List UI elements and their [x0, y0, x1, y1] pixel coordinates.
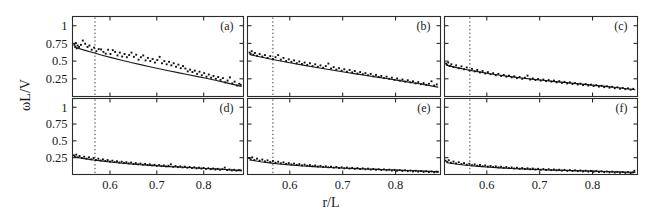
- data-point: [322, 166, 324, 168]
- data-point: [463, 162, 465, 164]
- data-point: [450, 63, 452, 65]
- data-point: [380, 169, 382, 171]
- data-point: [83, 156, 85, 158]
- data-point: [158, 164, 160, 166]
- data-point: [471, 68, 473, 70]
- data-point: [521, 167, 523, 169]
- data-point-group: [73, 40, 241, 87]
- data-point: [616, 86, 618, 88]
- data-point: [293, 163, 295, 165]
- data-point: [212, 168, 214, 170]
- data-point: [611, 86, 613, 88]
- data-point: [447, 62, 449, 64]
- data-point: [145, 59, 147, 61]
- scatter-panel-figure: (a)(b)(c)(d)(e)(f)0.250.50.7510.250.50.7…: [0, 0, 662, 214]
- data-point: [128, 54, 130, 56]
- data-point: [81, 157, 83, 159]
- data-point: [206, 76, 208, 78]
- data-point: [93, 47, 95, 49]
- figure-panel-grid: (a)(b)(c)(d)(e)(f)0.250.50.7510.250.50.7…: [0, 0, 662, 214]
- data-point: [208, 74, 210, 76]
- data-point: [367, 74, 369, 76]
- data-point: [312, 65, 314, 67]
- data-point: [590, 84, 592, 86]
- data-point: [73, 44, 75, 46]
- data-point: [179, 165, 181, 167]
- data-point: [102, 51, 104, 53]
- data-point: [314, 63, 316, 65]
- data-point: [409, 170, 411, 172]
- data-point: [309, 62, 311, 64]
- data-point: [455, 64, 457, 66]
- data-point: [415, 82, 417, 84]
- x-tick-label: 0.8: [585, 178, 601, 192]
- fit-curve: [75, 47, 241, 86]
- data-point: [227, 80, 229, 82]
- data-point: [264, 160, 266, 162]
- data-point: [135, 54, 137, 56]
- data-point: [343, 68, 345, 70]
- data-point: [196, 167, 198, 169]
- data-point: [140, 56, 142, 58]
- data-point: [117, 54, 119, 56]
- data-point: [217, 168, 219, 170]
- data-point: [548, 168, 550, 170]
- data-point: [601, 170, 603, 172]
- data-point: [203, 72, 205, 74]
- data-point: [505, 166, 507, 168]
- y-axis-label: ωL/V: [18, 79, 33, 111]
- data-point: [193, 166, 195, 168]
- data-point: [479, 164, 481, 166]
- data-point: [304, 62, 306, 64]
- data-point: [116, 160, 118, 162]
- data-point: [412, 170, 414, 172]
- data-point: [306, 64, 308, 66]
- data-point: [516, 167, 518, 169]
- data-point: [180, 67, 182, 69]
- data-point: [391, 170, 393, 172]
- panel-a: (a): [73, 17, 244, 97]
- panel-label-f: (f): [616, 101, 628, 115]
- data-point: [394, 169, 396, 171]
- data-point: [388, 78, 390, 80]
- data-point: [372, 75, 374, 77]
- data-point: [234, 81, 236, 83]
- data-point: [267, 57, 269, 59]
- data-point: [250, 158, 252, 160]
- data-point: [154, 164, 156, 166]
- data-point: [191, 167, 193, 169]
- panel-label-a: (a): [220, 19, 233, 33]
- x-tick-label: 0.6: [282, 178, 298, 192]
- data-point: [165, 165, 167, 167]
- data-point: [154, 62, 156, 64]
- data-point: [184, 68, 186, 70]
- panel-label-d: (d): [220, 101, 234, 115]
- data-point: [272, 160, 274, 162]
- data-point: [187, 70, 189, 72]
- data-point: [399, 169, 401, 171]
- data-point: [375, 169, 377, 171]
- data-point: [210, 168, 212, 170]
- data-point: [609, 87, 611, 89]
- data-point: [569, 81, 571, 83]
- data-point: [186, 167, 188, 169]
- panel-e: (e): [248, 99, 441, 175]
- data-point: [619, 88, 621, 90]
- data-point: [460, 65, 462, 67]
- data-point: [240, 84, 242, 86]
- data-point: [505, 76, 507, 78]
- data-point: [401, 79, 403, 81]
- data-point: [182, 65, 184, 67]
- data-point: [468, 163, 470, 165]
- x-tick-label: 0.7: [532, 178, 548, 192]
- data-point: [616, 171, 618, 173]
- data-point: [614, 172, 616, 174]
- data-point: [487, 166, 489, 168]
- data-point: [458, 161, 460, 163]
- data-point: [423, 171, 425, 173]
- data-point: [532, 78, 534, 80]
- data-point: [170, 64, 172, 66]
- data-point: [556, 81, 558, 83]
- data-point: [425, 170, 427, 172]
- data-point: [325, 65, 327, 67]
